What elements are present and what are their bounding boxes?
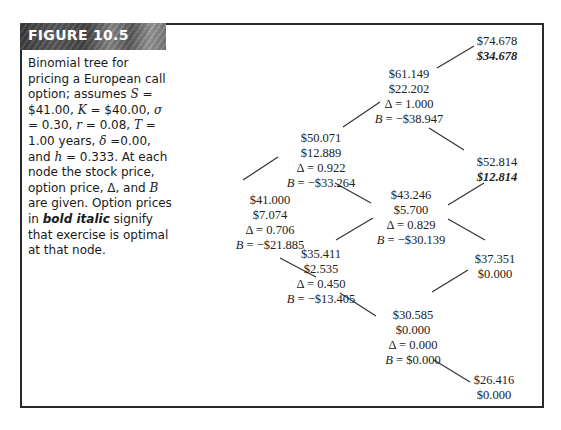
b-amount: = −$13.405 bbox=[294, 292, 355, 306]
tree-node-uuu: $74.678 $34.678 bbox=[442, 34, 552, 64]
stock-price: $50.071 bbox=[266, 131, 376, 146]
delta-value: Δ = 0.829 bbox=[356, 218, 466, 233]
option-price: $22.202 bbox=[354, 82, 464, 97]
tree-node-ddd: $26.416 $0.000 bbox=[439, 373, 549, 403]
option-price: $0.000 bbox=[439, 388, 549, 403]
tree-node-ud: $43.246 $5.700 Δ = 0.829 B = −$30.139 bbox=[356, 188, 466, 248]
b-amount: = $0.000 bbox=[393, 353, 441, 367]
b-amount: = −$33.264 bbox=[294, 176, 355, 190]
b-value: B = −$30.139 bbox=[356, 233, 466, 248]
tree-node-d: $35.411 $2.535 Δ = 0.450 B = −$13.405 bbox=[266, 247, 376, 307]
stock-price: $74.678 bbox=[442, 34, 552, 49]
b-label: B bbox=[385, 353, 393, 367]
delta-value: Δ = 0.706 bbox=[215, 223, 325, 238]
stock-price: $61.149 bbox=[354, 67, 464, 82]
option-price: $5.700 bbox=[356, 203, 466, 218]
stock-price: $30.585 bbox=[358, 308, 468, 323]
b-amount: = −$30.139 bbox=[384, 233, 445, 247]
stock-price: $41.000 bbox=[215, 193, 325, 208]
option-price: $0.000 bbox=[358, 323, 468, 338]
stock-price: $35.411 bbox=[266, 247, 376, 262]
stock-price: $43.246 bbox=[356, 188, 466, 203]
delta-value: Δ = 0.450 bbox=[266, 277, 376, 292]
b-value: B = $0.000 bbox=[358, 353, 468, 368]
stock-price: $37.351 bbox=[440, 252, 550, 267]
edge-nuu-nuud bbox=[429, 128, 464, 150]
tree-node-root: $41.000 $7.074 Δ = 0.706 B = −$21.885 bbox=[215, 193, 325, 253]
b-amount: = −$38.947 bbox=[382, 112, 443, 126]
b-value: B = −$38.947 bbox=[354, 112, 464, 127]
delta-value: Δ = 0.000 bbox=[358, 338, 468, 353]
option-price: $0.000 bbox=[440, 267, 550, 282]
tree-node-dd: $30.585 $0.000 Δ = 0.000 B = $0.000 bbox=[358, 308, 468, 368]
tree-node-udd: $37.351 $0.000 bbox=[440, 252, 550, 282]
figure-label: FIGURE 10.5 bbox=[28, 27, 129, 43]
stock-price: $26.416 bbox=[439, 373, 549, 388]
option-price: $7.074 bbox=[215, 208, 325, 223]
stock-price: $52.814 bbox=[442, 155, 552, 170]
b-value: B = −$13.405 bbox=[266, 292, 376, 307]
option-price: $2.535 bbox=[266, 262, 376, 277]
option-price: $12.889 bbox=[266, 146, 376, 161]
option-price-exercise: $34.678 bbox=[442, 49, 552, 64]
tree-node-uud: $52.814 $12.814 bbox=[442, 155, 552, 185]
option-price-exercise: $12.814 bbox=[442, 170, 552, 185]
delta-value: Δ = 0.922 bbox=[266, 161, 376, 176]
tree-node-uu: $61.149 $22.202 Δ = 1.000 B = −$38.947 bbox=[354, 67, 464, 127]
delta-value: Δ = 1.000 bbox=[354, 97, 464, 112]
tree-node-u: $50.071 $12.889 Δ = 0.922 B = −$33.264 bbox=[266, 131, 376, 191]
